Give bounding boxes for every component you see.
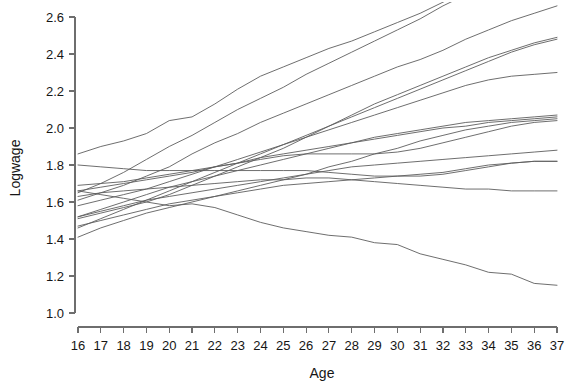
x-tick-label: 18 <box>116 338 130 353</box>
x-tick-label: 30 <box>390 338 404 353</box>
x-axis-title: Age <box>310 365 335 381</box>
x-tick-label: 37 <box>550 338 564 353</box>
x-tick-label: 31 <box>413 338 427 353</box>
y-tick-label: 1.0 <box>46 306 64 321</box>
y-tick-label: 2.6 <box>46 10 64 25</box>
y-tick-label: 1.4 <box>46 232 64 247</box>
chart-canvas: 1.01.21.41.61.82.02.22.42.6 161718192021… <box>0 0 569 385</box>
x-tick-label: 22 <box>208 338 222 353</box>
x-tick-label: 34 <box>481 338 495 353</box>
x-tick-label: 16 <box>71 338 85 353</box>
y-tick-label: 2.0 <box>46 121 64 136</box>
y-tick-label: 2.4 <box>46 47 64 62</box>
x-tick-label: 23 <box>230 338 244 353</box>
x-tick-label: 27 <box>322 338 336 353</box>
logwage-age-spaghetti-chart: 1.01.21.41.61.82.02.22.42.6 161718192021… <box>0 0 569 385</box>
x-tick-label: 21 <box>185 338 199 353</box>
x-tick-label: 17 <box>94 338 108 353</box>
x-tick-label: 32 <box>436 338 450 353</box>
x-tick-label: 26 <box>299 338 313 353</box>
y-axis-title: Logwage <box>7 139 23 196</box>
x-tick-label: 35 <box>504 338 518 353</box>
y-tick-label: 1.8 <box>46 158 64 173</box>
y-tick-label: 2.2 <box>46 84 64 99</box>
x-tick-label: 33 <box>459 338 473 353</box>
x-tick-label: 28 <box>344 338 358 353</box>
x-tick-label: 29 <box>367 338 381 353</box>
x-tick-label: 19 <box>139 338 153 353</box>
y-tick-label: 1.6 <box>46 195 64 210</box>
x-tick-label: 24 <box>253 338 267 353</box>
x-tick-label: 20 <box>162 338 176 353</box>
x-tick-label: 36 <box>527 338 541 353</box>
y-tick-label: 1.2 <box>46 269 64 284</box>
x-tick-label: 25 <box>276 338 290 353</box>
